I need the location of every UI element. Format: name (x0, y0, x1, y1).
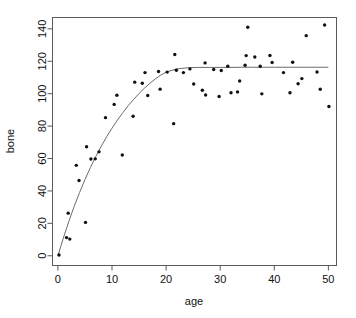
data-point (97, 150, 100, 153)
scatter-plot-figure: 020406080100120140 01020304050 age bone (0, 0, 356, 318)
data-point (226, 64, 229, 67)
y-tick-label: 140 (37, 20, 49, 38)
data-point (300, 77, 303, 80)
data-point (238, 79, 241, 82)
y-tick-label: 120 (37, 52, 49, 70)
data-point (89, 157, 92, 160)
x-axis-title: age (185, 295, 203, 307)
data-point (229, 91, 232, 94)
y-axis-title: bone (4, 129, 16, 153)
data-point (173, 53, 176, 56)
data-point (175, 68, 178, 71)
data-point (244, 54, 247, 57)
data-point (220, 69, 223, 72)
data-point (141, 82, 144, 85)
data-point (212, 68, 215, 71)
data-point (75, 164, 78, 167)
data-point (204, 93, 207, 96)
plot-canvas: 020406080100120140 01020304050 age bone (0, 0, 356, 318)
data-point (104, 116, 107, 119)
data-point (268, 54, 271, 57)
data-point (146, 94, 149, 97)
y-tick-label: 20 (37, 217, 49, 229)
x-tick-label: 10 (106, 273, 118, 285)
data-point (94, 157, 97, 160)
data-point (236, 90, 239, 93)
data-point (217, 95, 220, 98)
data-point (131, 115, 134, 118)
data-point (157, 70, 160, 73)
data-point (68, 237, 71, 240)
data-point (143, 71, 146, 74)
data-point (192, 82, 195, 85)
data-point (57, 253, 60, 256)
data-point (203, 61, 206, 64)
data-point (327, 105, 330, 108)
x-tick-label: 40 (268, 273, 280, 285)
x-tick-label: 30 (214, 273, 226, 285)
data-point (158, 87, 161, 90)
data-point (65, 236, 68, 239)
data-point (77, 179, 80, 182)
y-tick-label: 100 (37, 85, 49, 103)
data-point (66, 211, 69, 214)
data-point (270, 61, 273, 64)
data-point (246, 26, 249, 29)
data-point (323, 23, 326, 26)
data-point (133, 80, 136, 83)
data-point (84, 221, 87, 224)
data-point (315, 70, 318, 73)
data-point (259, 65, 262, 68)
data-point (182, 71, 185, 74)
y-tick-label: 40 (37, 185, 49, 197)
data-point (172, 122, 175, 125)
data-point (288, 91, 291, 94)
data-point (296, 82, 299, 85)
figure-background (0, 0, 356, 318)
y-tick-label: 0 (37, 253, 49, 259)
data-point (165, 70, 168, 73)
x-tick-label: 0 (55, 273, 61, 285)
data-point (121, 153, 124, 156)
data-point (260, 92, 263, 95)
data-point (85, 145, 88, 148)
x-tick-label: 50 (322, 273, 334, 285)
data-point (291, 61, 294, 64)
data-point (319, 88, 322, 91)
y-tick-label: 60 (37, 152, 49, 164)
data-point (188, 67, 191, 70)
data-point (112, 103, 115, 106)
data-point (201, 89, 204, 92)
data-point (282, 71, 285, 74)
x-tick-label: 20 (160, 273, 172, 285)
data-point (305, 34, 308, 37)
data-point (115, 94, 118, 97)
y-tick-label: 80 (37, 120, 49, 132)
data-point (253, 55, 256, 58)
data-point (243, 64, 246, 67)
